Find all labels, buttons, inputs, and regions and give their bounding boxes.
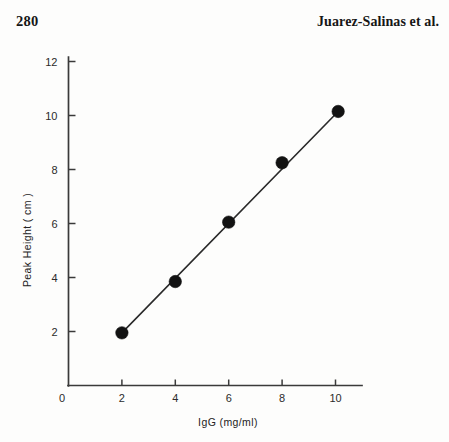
y-tick-label: 4 [51, 272, 57, 284]
x-tick-label: 2 [119, 392, 125, 404]
x-tick-label: 8 [279, 392, 285, 404]
data-point [332, 105, 344, 117]
plot-tick-labels: 24681024681012 [45, 56, 341, 404]
chart-figure: 24681024681012 IgG (mg/ml) Peak Height (… [0, 0, 449, 442]
data-series [116, 105, 345, 339]
y-tick-label: 12 [45, 56, 57, 68]
y-tick-label: 10 [45, 110, 57, 122]
data-point [169, 275, 181, 287]
figure-page: 280 Juarez-Salinas et al. 24681024681012… [0, 0, 449, 442]
scatter-plot: 24681024681012 IgG (mg/ml) Peak Height (… [0, 0, 449, 442]
x-tick-label: 10 [329, 392, 341, 404]
y-axis-title: Peak Height ( cm ) [21, 193, 33, 287]
data-point [223, 216, 235, 228]
x-tick-label: 6 [226, 392, 232, 404]
y-tick-label: 8 [51, 164, 57, 176]
x-axis-title: IgG (mg/ml) [198, 416, 258, 428]
plot-axes [68, 57, 362, 386]
origin-tick-label: 0 [59, 392, 65, 404]
data-point [116, 327, 128, 339]
data-point [276, 157, 288, 169]
plot-ticks [69, 62, 336, 386]
y-tick-label: 2 [51, 326, 57, 338]
x-tick-label: 4 [172, 392, 178, 404]
y-tick-label: 6 [51, 218, 57, 230]
